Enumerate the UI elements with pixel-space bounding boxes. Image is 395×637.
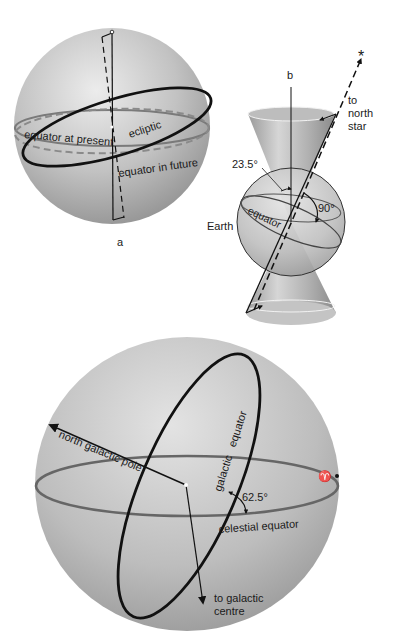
label-to: to [348,94,357,106]
celestial-diagram: equator at present ecliptic equator in f… [0,0,395,637]
label-to-galactic: to galactic [214,592,264,604]
caption-a: a [117,236,124,248]
vernal-equinox-symbol: ♈ [318,470,332,483]
lower-cone-base [246,301,336,325]
vernal-equinox-point [335,474,339,478]
label-star: star [348,120,367,132]
label-angle-90: 90° [318,202,335,214]
caption-b: b [287,69,293,81]
star-glyph: * [358,48,364,65]
label-angle-62-5: 62.5° [242,491,268,503]
sphere-center-marker [184,483,188,487]
figure-c-galactic-coordinates: north galactic pole galactic equator 62.… [35,337,339,636]
pole-marker [110,30,114,34]
label-earth: Earth [207,220,233,232]
label-angle-23-5: 23.5° [232,158,258,170]
figure-a-precession: equator at present ecliptic equator in f… [14,28,219,248]
center-marker [110,125,113,128]
label-centre: centre [214,605,245,617]
figure-b-earth-precession: * b to north star 23.5° 90° Earth equato… [207,48,373,325]
label-north: north [348,107,373,119]
